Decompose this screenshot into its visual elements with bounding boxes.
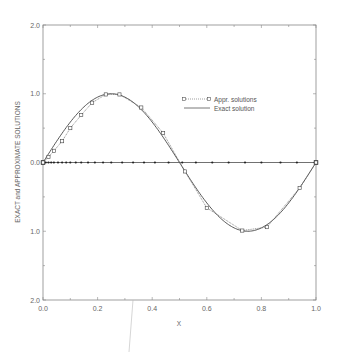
- approx-point: [298, 186, 301, 189]
- x-axis-label: X: [177, 320, 182, 327]
- approx-point: [52, 149, 55, 152]
- approx-point: [314, 161, 317, 164]
- tick-labels: 0.00.20.40.60.81.02.01.00.01.02.0: [30, 22, 321, 313]
- approx-point: [104, 93, 107, 96]
- x-tick-label: 0.8: [257, 305, 267, 312]
- approx-point: [140, 106, 143, 109]
- approx-point: [241, 229, 244, 232]
- y-tick-label: 1.0: [30, 90, 40, 97]
- y-tick-label: 2.0: [30, 297, 40, 304]
- approx-point: [61, 140, 64, 143]
- y-tick-label: 1.0: [30, 228, 40, 235]
- approx-point: [205, 206, 208, 209]
- approx-point: [183, 170, 186, 173]
- approx-point: [162, 131, 165, 134]
- y-axis-label: EXACT and APPROXIMATE SOLUTIONS: [14, 101, 21, 223]
- square-marker-icon: [183, 98, 186, 101]
- approx-point: [80, 113, 83, 116]
- x-tick-label: 0.2: [93, 305, 103, 312]
- legend-item-exact: Exact solution: [184, 105, 255, 112]
- approx-point: [47, 155, 50, 158]
- legend: Appr. solutions Exact solution: [183, 96, 258, 112]
- x-tick-label: 0.4: [147, 305, 157, 312]
- approx-point: [69, 127, 72, 130]
- stray-line: [129, 300, 133, 352]
- approx-point: [41, 161, 44, 164]
- legend-item-approx: Appr. solutions: [183, 96, 258, 104]
- x-tick-label: 1.0: [311, 305, 321, 312]
- legend-label-approx: Appr. solutions: [214, 96, 257, 104]
- legend-label-exact: Exact solution: [214, 105, 255, 112]
- chart: 0.00.20.40.60.81.02.01.00.01.02.0 X EXAC…: [0, 0, 340, 361]
- y-tick-label: 2.0: [30, 22, 40, 29]
- approx-point: [91, 101, 94, 104]
- x-tick-label: 0.0: [38, 305, 48, 312]
- y-tick-label: 0.0: [30, 159, 40, 166]
- square-marker-icon: [208, 98, 211, 101]
- approx-point: [118, 93, 121, 96]
- x-tick-label: 0.6: [202, 305, 212, 312]
- approx-point: [265, 226, 268, 229]
